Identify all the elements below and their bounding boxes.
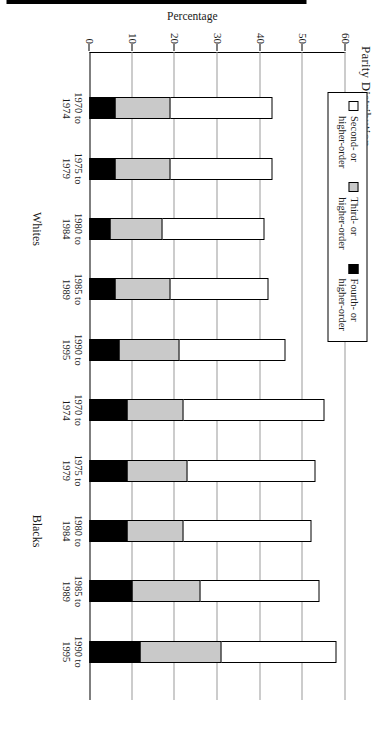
category-label: 1980 to1984 [58,515,83,547]
category-label-line1: 1980 to [71,213,83,245]
gray-swatch-icon [348,182,358,192]
y-axis-tick-label: 20 [168,18,180,44]
legend-label-line2: higher-order [335,279,347,331]
y-axis-tick [131,44,132,51]
bar-fourth-or-higher-order [89,97,115,119]
bar-fourth-or-higher-order [89,158,115,180]
y-axis-tick-label: 10 [126,18,138,44]
y-axis-tick [216,44,217,51]
category-label-line2: 1979 [58,455,70,487]
category-label-line1: 1985 to [71,273,83,305]
bar-fourth-or-higher-order [89,641,140,663]
y-axis-tick-label: 30 [211,18,223,44]
group-label: Blacks [28,515,43,548]
legend-label-line2: higher-order [335,116,347,168]
bar-chart: Parity Distribution Second- orhigher-ord… [0,0,389,748]
y-axis-tick [301,44,302,51]
rotated-page-stage: Parity Distribution Second- orhigher-ord… [0,0,389,748]
category-label-line2: 1995 [58,636,70,668]
legend-label-line2: higher-order [335,197,347,249]
category-label-line2: 1979 [58,153,70,185]
legend-label-line1: Third- or [347,197,359,249]
category-label: 1985 to1989 [58,575,83,607]
category-label-line1: 1970 to [71,394,83,426]
category-label-line1: 1990 to [71,636,83,668]
category-label-line2: 1984 [58,213,70,245]
bar-fourth-or-higher-order [89,460,127,482]
category-label-line1: 1970 to [71,92,83,124]
gridline [301,52,302,700]
y-axis-tick [173,44,174,51]
category-label-line1: 1985 to [71,575,83,607]
legend-label: Third- orhigher-order [335,197,359,249]
bar-fourth-or-higher-order [89,218,110,240]
gridline [173,52,174,700]
category-label: 1975 to1979 [58,153,83,185]
category-label: 1990 to1995 [58,334,83,366]
bar-fourth-or-higher-order [89,278,115,300]
legend-label: Second- orhigher-order [335,116,359,168]
category-label-line2: 1974 [58,394,70,426]
legend-item: Second- orhigher-order [335,101,359,168]
legend-label-line1: Fourth- or [347,279,359,331]
y-axis-tick [344,44,345,51]
y-axis-tick-label: 50 [296,18,308,44]
category-label: 1970 to1974 [58,92,83,124]
gridline [216,52,217,700]
y-axis-tick-label: 60 [339,18,351,44]
bar-fourth-or-higher-order [89,520,127,542]
page-edge-rule [6,0,306,4]
category-label: 1975 to1979 [58,455,83,487]
category-label-line1: 1975 to [71,455,83,487]
legend-label: Fourth- orhigher-order [335,279,359,331]
category-label-line2: 1974 [58,92,70,124]
group-label: Whites [28,212,43,246]
plot-area: Percentage 01020304050601970 to19741975 … [89,52,345,700]
category-label-line1: 1990 to [71,334,83,366]
y-axis-tick [88,44,89,51]
bar-fourth-or-higher-order [89,399,127,421]
category-label-line2: 1989 [58,575,70,607]
category-label: 1985 to1989 [58,273,83,305]
category-label-line2: 1984 [58,515,70,547]
category-label-line1: 1980 to [71,515,83,547]
category-label-line1: 1975 to [71,153,83,185]
white-swatch-icon [348,101,358,111]
legend-item: Fourth- orhigher-order [335,264,359,331]
black-swatch-icon [348,264,358,274]
chart-legend: Second- orhigher-orderThird- orhigher-or… [327,92,367,342]
bar-fourth-or-higher-order [89,339,119,361]
x-axis-line [89,52,90,700]
bar-fourth-or-higher-order [89,580,132,602]
category-label: 1980 to1984 [58,213,83,245]
y-axis-tick-label: 0 [83,18,95,44]
category-label-line2: 1989 [58,273,70,305]
legend-label-line1: Second- or [347,116,359,168]
category-label-line2: 1995 [58,334,70,366]
category-label: 1990 to1995 [58,636,83,668]
category-label: 1970 to1974 [58,394,83,426]
legend-item: Third- orhigher-order [335,182,359,249]
y-axis-tick-label: 40 [254,18,266,44]
gridline [259,52,260,700]
y-axis-tick [259,44,260,51]
gridline [131,52,132,700]
